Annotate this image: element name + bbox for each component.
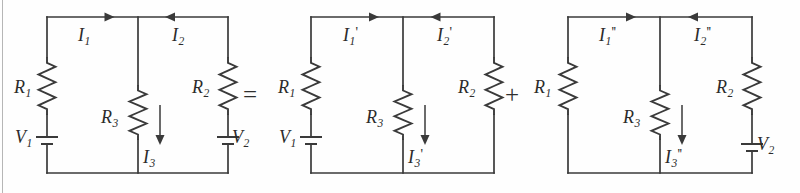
circuit-source-v1-only-current-I2-prime-label: I2' <box>437 26 452 47</box>
circuit-source-v1-only-current-I2-prime-head <box>431 13 441 22</box>
figure-canvas: I1I2I3R1R3R2V1V2I1'I2'I3'R1R3R2V1I1''I2'… <box>0 0 800 193</box>
circuit-original-battery-V1 <box>36 137 58 144</box>
circuit-source-v1-only-current-I1-prime-label: I1' <box>343 26 358 47</box>
circuit-source-v2-only-current-I1-double-prime-head <box>626 13 636 22</box>
circuit-source-v2-only-resistor-R3-double-prime <box>652 85 669 140</box>
circuit-source-v2-only-resistor-R1-double-prime <box>560 57 577 115</box>
operator-plus: + <box>505 82 519 107</box>
circuit-source-v1-only-current-I1-prime-head <box>369 13 379 22</box>
circuit-source-v2-only-label-V2-double-prime: V2 <box>757 135 774 156</box>
circuit-source-v2-only-current-I3-double-prime-head <box>678 135 687 145</box>
circuit-original-label-R1: R1 <box>14 78 31 99</box>
circuit-original-label-V2: V2 <box>232 128 249 149</box>
circuit-source-v2-only-label-R2-double-prime: R2 <box>716 78 733 99</box>
circuit-original-label-V1: V1 <box>15 128 32 149</box>
circuit-source-v1-only-current-I3-prime-head <box>421 135 430 145</box>
circuit-source-v1-only-label-R3-prime: R3 <box>366 108 383 129</box>
circuit-source-v2-only-current-I2-double-prime-head <box>688 13 698 22</box>
circuit-original-resistor-R3 <box>130 85 147 140</box>
operator-equals: = <box>243 82 257 107</box>
circuit-source-v1-only-label-R1-prime: R1 <box>278 78 295 99</box>
circuit-original-current-I3-head <box>156 135 165 145</box>
circuit-original-current-I1-label: I1 <box>78 26 90 47</box>
circuit-original-resistor-R1 <box>39 57 56 115</box>
circuit-source-v1-only-resistor-R1-prime <box>303 57 320 115</box>
circuit-source-v1-only-resistor-R2-prime <box>486 57 503 115</box>
circuit-source-v1-only-label-R2-prime: R2 <box>458 78 475 99</box>
circuit-original-current-I2-label: I2 <box>172 26 184 47</box>
circuit-original-label-R3: R3 <box>101 108 118 129</box>
circuit-original-current-I1-head <box>105 13 115 22</box>
circuit-source-v2-only-label-R1-double-prime: R1 <box>534 78 551 99</box>
circuit-source-v2-only-resistor-R2-double-prime <box>744 57 761 115</box>
circuit-source-v2-only-current-I3-double-prime-label: I3'' <box>665 148 682 169</box>
circuit-original-resistor-R2 <box>220 57 237 115</box>
circuit-source-v1-only-current-I3-prime-label: I3' <box>408 148 423 169</box>
circuit-source-v1-only-label-V1-prime: V1 <box>279 128 296 149</box>
circuit-original-label-R2: R2 <box>192 78 209 99</box>
circuit-original-current-I3-label: I3 <box>143 148 155 169</box>
circuit-source-v1-only-resistor-R3-prime <box>395 85 412 140</box>
circuit-original-current-I2-head <box>165 13 175 22</box>
circuit-source-v2-only-label-R3-double-prime: R3 <box>623 108 640 129</box>
circuit-source-v2-only-current-I2-double-prime-label: I2'' <box>694 26 711 47</box>
circuit-source-v2-only-current-I1-double-prime-label: I1'' <box>599 26 616 47</box>
circuit-source-v1-only-battery-V1-prime <box>300 137 322 144</box>
